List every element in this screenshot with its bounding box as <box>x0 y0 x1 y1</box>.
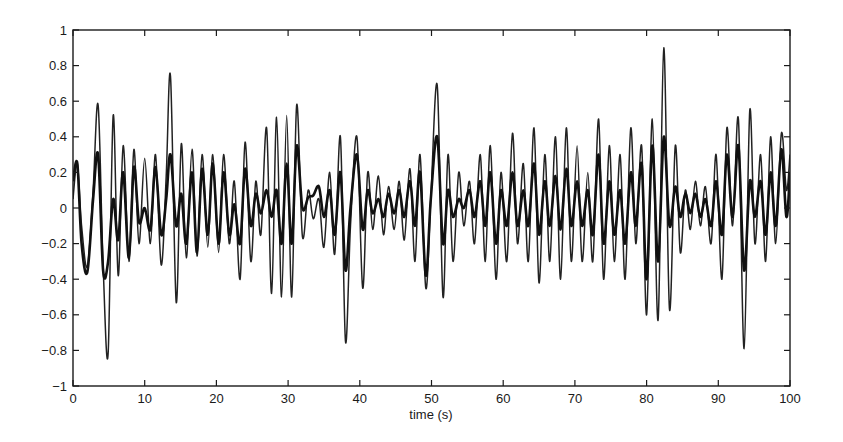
x-tick-label: 40 <box>353 391 367 406</box>
y-tick-label: 0 <box>60 201 67 216</box>
y-tick-label: 0.4 <box>49 129 67 144</box>
x-tick-label: 80 <box>639 391 653 406</box>
x-tick-label: 100 <box>779 391 801 406</box>
y-tick-label: −1 <box>52 379 67 394</box>
x-tick-label: 70 <box>568 391 582 406</box>
y-tick-label: −0.8 <box>41 343 67 358</box>
y-tick-label: −0.6 <box>41 307 67 322</box>
x-tick-label: 90 <box>711 391 725 406</box>
y-tick-label: 0.6 <box>49 94 67 109</box>
y-tick-label: −0.4 <box>41 272 67 287</box>
y-tick-label: −0.2 <box>41 236 67 251</box>
x-axis-label: time (s) <box>409 407 452 422</box>
y-tick-label: 1 <box>60 23 67 38</box>
line-chart: 0102030405060708090100 −1−0.8−0.6−0.4−0.… <box>0 0 843 442</box>
x-tick-label: 50 <box>424 391 438 406</box>
x-tick-label: 0 <box>69 391 76 406</box>
x-tick-label: 60 <box>496 391 510 406</box>
x-tick-label: 10 <box>137 391 151 406</box>
x-tick-label: 30 <box>281 391 295 406</box>
y-tick-label: 0.8 <box>49 58 67 73</box>
y-tick-label: 0.2 <box>49 165 67 180</box>
x-tick-label: 20 <box>209 391 223 406</box>
